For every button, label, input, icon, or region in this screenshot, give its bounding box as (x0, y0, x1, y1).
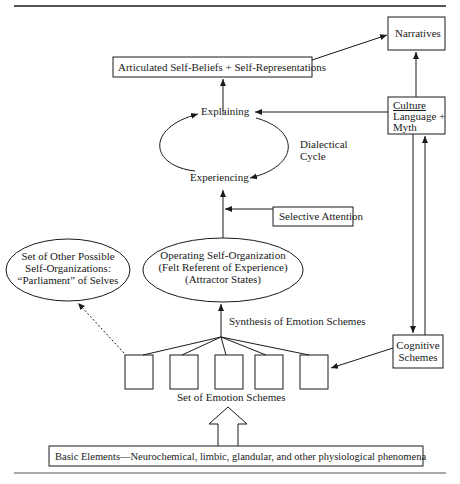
experiencing-label: Experiencing (190, 171, 249, 184)
emotion-scheme-box-5 (300, 355, 328, 389)
operating-line-3: (Attractor States) (143, 273, 303, 286)
explaining-label: Explaining (201, 105, 249, 118)
emotion-scheme-box-1 (125, 355, 153, 389)
selective-attention-label: Selective Attention (279, 210, 363, 223)
other-selves-line-3: “Parliament” of Selves (8, 274, 128, 287)
emotion-scheme-box-4 (255, 355, 283, 389)
hollow-up-arrow-icon (209, 407, 247, 446)
cycle-arc-left (160, 114, 198, 171)
synthesis-label: Synthesis of Emotion Schemes (229, 315, 366, 328)
articulated-label: Articulated Self-Beliefs + Self-Represen… (118, 61, 326, 74)
emotion-scheme-box-2 (170, 355, 198, 389)
arrow-articulated-to-narratives (312, 35, 387, 60)
synthesis-fan-lines (143, 337, 309, 355)
arrow-cognitive-to-emotion-scheme (331, 348, 393, 368)
cycle-arc-right (250, 118, 288, 178)
emotion-schemes-group (125, 355, 328, 389)
emotion-scheme-box-3 (215, 355, 243, 389)
culture-line-3: Myth (393, 121, 417, 134)
narratives-label: Narratives (395, 27, 441, 40)
dashed-arrow-to-other-selves (78, 303, 124, 353)
basic-elements-label: Basic Elements—Neurochemical, limbic, gl… (55, 450, 426, 463)
emotion-schemes-label: Set of Emotion Schemes (177, 391, 285, 404)
dialectical-label-2: Cycle (300, 150, 326, 163)
cognitive-line-2: Schemes (393, 351, 443, 364)
